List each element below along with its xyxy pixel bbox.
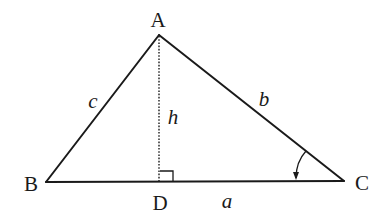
triangle-diagram: A B C D c b a h: [0, 0, 391, 218]
vertex-label-a: A: [150, 8, 166, 32]
side-label-b: b: [259, 87, 270, 111]
side-label-c: c: [88, 89, 98, 113]
altitude-label-h: h: [168, 105, 179, 129]
vertex-label-b: B: [24, 172, 38, 196]
side-c-line: [46, 35, 159, 182]
side-label-a: a: [222, 189, 233, 213]
side-a-line: [46, 181, 344, 182]
vertex-label-c: C: [355, 171, 369, 195]
arrowhead-icon: [293, 172, 299, 180]
side-b-line: [159, 35, 344, 181]
vertex-label-d: D: [152, 191, 167, 215]
right-angle-marker: [160, 171, 173, 181]
